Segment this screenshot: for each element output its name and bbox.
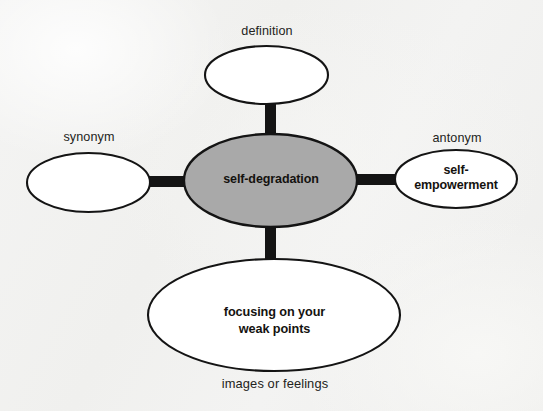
definition-node-label: definition <box>206 24 328 38</box>
word-web-diagram: self-degradation self- empowerment focus… <box>0 0 543 411</box>
antonym-node-label: antonym <box>396 131 518 145</box>
diagram-canvas <box>0 0 543 411</box>
synonym-ellipse[interactable] <box>27 153 150 212</box>
definition-ellipse[interactable] <box>205 46 328 104</box>
examples-node-label: images or feelings <box>149 376 401 391</box>
examples-node-text: focusing on your weak points <box>148 304 401 337</box>
connector-bottom <box>265 222 276 264</box>
antonym-node-text: self- empowerment <box>393 163 519 192</box>
connector-top <box>265 100 276 138</box>
center-node-text: self-degradation <box>184 172 358 187</box>
synonym-node-label: synonym <box>28 130 150 144</box>
